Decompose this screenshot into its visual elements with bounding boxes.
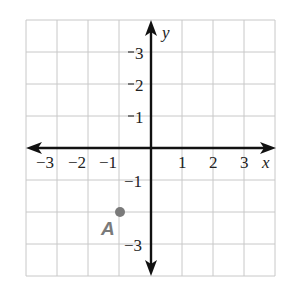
x-tick-label-neg2: −2 [68, 154, 86, 171]
y-tick-label-neg3: −3 [124, 237, 142, 254]
x-tick-label-3: 3 [240, 154, 249, 171]
axes [34, 28, 268, 268]
x-axis-label: x [262, 154, 270, 171]
y-tick-label-1: 1 [135, 109, 144, 126]
x-tick-label-neg1: −1 [99, 154, 117, 171]
point-a-marker [115, 207, 125, 217]
x-tick-label-neg3: −3 [36, 154, 54, 171]
coordinate-plane [0, 0, 292, 288]
y-tick-label-neg1: −1 [124, 173, 142, 190]
point-a-label: A [101, 218, 115, 240]
y-tick-label-2: 2 [135, 77, 144, 94]
x-tick-label-1: 1 [178, 154, 187, 171]
x-tick-label-2: 2 [209, 154, 218, 171]
y-tick-marks [128, 52, 134, 116]
y-axis-label: y [162, 24, 170, 41]
y-tick-label-3: 3 [135, 45, 144, 62]
